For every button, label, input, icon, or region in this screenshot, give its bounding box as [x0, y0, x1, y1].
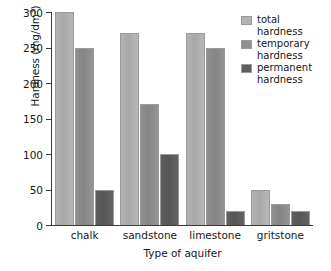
y-axis-tick-label: 250 — [23, 42, 43, 54]
legend-label-line2: hardness — [257, 74, 312, 86]
y-axis-tick-label: 50 — [30, 184, 43, 196]
y-axis-tick-label: 100 — [23, 149, 43, 161]
bar-temporary — [206, 48, 225, 226]
legend-label-line1: permanent — [257, 62, 312, 74]
y-axis-tick: 300 — [46, 12, 51, 13]
bar-permanent — [226, 211, 245, 225]
y-axis-tick: 100 — [46, 154, 51, 155]
bar-chart: Hardness (mg/dm3) 050100150200250300 cha… — [0, 0, 331, 271]
chart-legend: totalhardnesstemporaryhardnesspermanenth… — [241, 14, 312, 85]
legend-label-line1: total — [257, 14, 303, 26]
legend-swatch-temporary — [241, 40, 252, 49]
bar-temporary — [75, 48, 94, 226]
bar-temporary — [271, 204, 290, 225]
x-axis-category-labels: chalksandstonelimestonegritstone — [52, 229, 313, 241]
legend-label: temporaryhardness — [257, 38, 310, 61]
y-axis-tick-label: 200 — [23, 78, 43, 90]
legend-label-line1: temporary — [257, 38, 310, 50]
bar-temporary — [140, 104, 159, 225]
x-axis-category-label: gritstone — [248, 229, 313, 241]
y-axis-tick: 250 — [46, 48, 51, 49]
bar-total — [120, 33, 139, 225]
bar-permanent — [291, 211, 310, 225]
x-axis-category-label: chalk — [52, 229, 117, 241]
bar-group — [117, 12, 182, 225]
bar-permanent — [160, 154, 179, 225]
legend-label: totalhardness — [257, 14, 303, 37]
x-axis-category-label: limestone — [183, 229, 248, 241]
x-axis-title: Type of aquifer — [52, 247, 313, 259]
legend-swatch-total — [241, 16, 252, 25]
bar-group — [183, 12, 248, 225]
legend-item: permanenthardness — [241, 62, 312, 85]
bar-total — [186, 33, 205, 225]
legend-label-line2: hardness — [257, 26, 303, 38]
y-axis-tick-label: 300 — [23, 7, 43, 19]
x-axis-category-label: sandstone — [117, 229, 182, 241]
y-axis-title-text: Hardness (mg/dm — [29, 14, 41, 106]
y-axis-tick: 200 — [46, 83, 51, 84]
legend-label: permanenthardness — [257, 62, 312, 85]
legend-item: temporaryhardness — [241, 38, 312, 61]
y-axis-title: Hardness (mg/dm3) — [29, 0, 41, 151]
bar-total — [251, 190, 270, 226]
bar-group — [52, 12, 117, 225]
bar-total — [55, 12, 74, 225]
y-axis-tick: 150 — [46, 119, 51, 120]
y-axis-tick: 0 — [46, 225, 51, 226]
legend-item: totalhardness — [241, 14, 312, 37]
y-axis-tick-label: 150 — [23, 113, 43, 125]
y-axis-tick-label: 0 — [36, 220, 43, 232]
x-axis-line — [51, 225, 313, 226]
bar-permanent — [95, 190, 114, 226]
legend-label-line2: hardness — [257, 50, 310, 62]
legend-swatch-permanent — [241, 64, 252, 73]
y-axis-tick: 50 — [46, 190, 51, 191]
